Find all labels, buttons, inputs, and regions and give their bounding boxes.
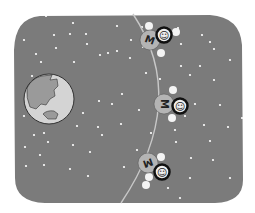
- star: [89, 151, 91, 153]
- star: [190, 157, 192, 159]
- star: [180, 65, 182, 67]
- star: [229, 59, 231, 61]
- star: [23, 39, 25, 41]
- star: [194, 103, 196, 105]
- atom-ball: [157, 49, 165, 57]
- star: [98, 100, 100, 102]
- atom-ball: [172, 28, 180, 36]
- atom-ball: [145, 22, 153, 30]
- star: [72, 22, 74, 24]
- star: [23, 115, 25, 117]
- star: [159, 78, 161, 80]
- star: [229, 177, 231, 179]
- star: [227, 126, 229, 128]
- star: [175, 141, 177, 143]
- smiley-face-icon: ☺: [157, 167, 167, 178]
- star: [86, 43, 88, 45]
- star: [179, 197, 181, 199]
- star: [76, 125, 78, 127]
- star: [69, 168, 71, 170]
- atom-ball: [169, 86, 177, 94]
- star: [101, 134, 103, 136]
- star: [69, 33, 71, 35]
- star: [213, 48, 215, 50]
- star: [174, 129, 176, 131]
- smiley-face-icon: ☺: [175, 101, 185, 112]
- star: [97, 126, 99, 128]
- earth-globe: [24, 74, 74, 124]
- star: [212, 159, 214, 161]
- star: [123, 166, 125, 168]
- star: [39, 154, 41, 156]
- star: [241, 117, 243, 119]
- star: [45, 15, 47, 17]
- atom-ball: [157, 153, 165, 161]
- star: [203, 124, 205, 126]
- smiley-face-icon: ☺: [159, 30, 169, 41]
- star: [47, 141, 49, 143]
- atom-ball: [168, 114, 176, 122]
- star: [107, 52, 109, 54]
- star: [116, 25, 118, 27]
- star: [189, 177, 191, 179]
- star: [73, 61, 75, 63]
- ball-label: M: [159, 99, 170, 109]
- star: [53, 34, 55, 36]
- star: [209, 41, 211, 43]
- star: [129, 57, 131, 59]
- star: [87, 175, 89, 177]
- star: [111, 103, 113, 105]
- star: [121, 93, 123, 95]
- star: [43, 132, 45, 134]
- star: [72, 144, 74, 146]
- star: [150, 132, 152, 134]
- star: [33, 134, 35, 136]
- star: [136, 149, 138, 151]
- star: [25, 165, 27, 167]
- star: [82, 112, 84, 114]
- star: [199, 65, 201, 67]
- star: [138, 109, 140, 111]
- star: [184, 115, 186, 117]
- star: [31, 75, 33, 77]
- star: [35, 53, 37, 55]
- star: [167, 187, 169, 189]
- star: [213, 79, 215, 81]
- space-illustration: M☺M☺M☺: [0, 0, 255, 213]
- star: [99, 54, 101, 56]
- star: [116, 50, 118, 52]
- atom-ball: [145, 173, 153, 181]
- star: [201, 34, 203, 36]
- star: [43, 164, 45, 166]
- star: [40, 61, 42, 63]
- star: [219, 104, 221, 106]
- star: [85, 33, 87, 35]
- star: [24, 146, 26, 148]
- star: [209, 140, 211, 142]
- star: [180, 43, 182, 45]
- star: [189, 74, 191, 76]
- star: [130, 39, 132, 41]
- star: [120, 123, 122, 125]
- star: [55, 47, 57, 49]
- atom-ball: [142, 181, 150, 189]
- star: [145, 72, 147, 74]
